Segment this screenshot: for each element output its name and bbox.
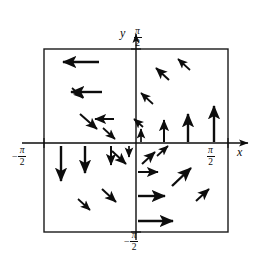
tick-label-y-top: π 2 <box>133 27 142 48</box>
field-arrow <box>178 59 190 70</box>
tick-label-x-left-numerator: π <box>19 146 26 156</box>
vector-arrow-group <box>61 59 214 221</box>
field-arrow <box>80 114 97 129</box>
field-arrow <box>172 168 191 186</box>
field-arrow <box>141 93 153 104</box>
tick-label-x-right-numerator: π <box>207 146 214 156</box>
tick-label-x-left-denominator: 2 <box>19 158 26 168</box>
field-arrow <box>78 199 90 210</box>
field-arrow <box>157 146 168 156</box>
y-axis-letter: y <box>119 26 126 40</box>
tick-label-y-bottom: − π 2 <box>124 231 138 252</box>
tick-label-y-top-denominator: 2 <box>134 39 141 49</box>
tick-label-y-top-numerator: π <box>134 27 141 37</box>
tick-label-y-bottom-sign: − <box>124 237 130 247</box>
field-arrow <box>196 189 209 201</box>
field-arrow <box>102 189 116 202</box>
field-arrow <box>103 128 115 139</box>
tick-label-x-left: − π 2 <box>12 146 26 167</box>
tick-label-y-bottom-numerator: π <box>131 231 138 241</box>
field-arrow <box>112 151 126 164</box>
x-axis-letter: x <box>236 145 243 159</box>
tick-label-x-right: π 2 <box>206 146 215 167</box>
field-arrow <box>156 68 169 80</box>
tick-label-x-right-denominator: 2 <box>207 158 214 168</box>
tick-label-x-left-sign: − <box>12 152 18 162</box>
field-arrow <box>142 152 155 164</box>
tick-label-y-bottom-denominator: 2 <box>131 243 138 253</box>
direction-field-figure: y x π 2 π 2 − π 2 − π 2 <box>0 0 270 261</box>
